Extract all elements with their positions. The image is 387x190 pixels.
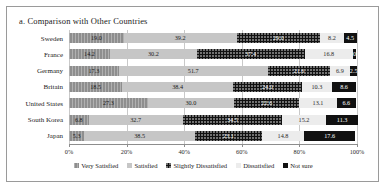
bar-segment: 0.9 [353,49,356,59]
category-label: Britain [0,83,63,91]
legend-swatch-icon [283,163,288,168]
x-axis-label: 20% [121,148,133,155]
bar-segment: 51.7 [119,66,268,76]
bar-segment: 17.6 [304,131,355,141]
bar-value-label: 37.4 [197,51,305,57]
x-axis-tick [357,144,358,147]
x-axis-tick [127,144,128,147]
bar-value-label: 6.9 [330,68,350,74]
bar-value-label: 24.0 [233,84,302,90]
gridline [357,30,358,144]
bar-value-label: 27.3 [69,100,148,106]
bar-segment: 14.2 [69,49,110,59]
legend-item[interactable]: Not sure [283,162,313,169]
bar-segment: 5.3 [69,131,84,141]
table-row: 18.538.424.010.38.6 [69,82,357,92]
legend-item[interactable]: Slightly Dissatisfied [166,162,227,169]
bar-value-label: 23.1 [195,133,262,139]
bar-value-label: 11.3 [326,116,359,122]
bar-value-label: 30.2 [110,51,197,57]
table-row: 14.230.237.416.80.9 [69,49,357,59]
bar-value-label: 0.9 [353,51,356,57]
legend-label: Not sure [290,162,313,169]
bar-value-label: 51.7 [119,68,268,74]
legend-label: Very Satisfied [81,162,118,169]
bar-segment: 27.3 [69,98,148,108]
bar-segment: 17.3 [69,66,119,76]
legend-swatch-icon [74,163,79,168]
bar-segment: 6.8 [69,115,89,125]
legend-swatch-icon [236,163,241,168]
table-row: 5.338.523.114.817.6 [69,131,357,141]
legend-label: Slightly Dissatisfied [173,162,227,169]
bar-segment: 11.3 [326,115,359,125]
chart-title: a. Comparison with Other Countries [19,16,148,26]
bar-value-label: 34.5 [183,116,282,122]
bar-value-label: 21.6 [268,68,330,74]
bar-value-label: 8.6 [332,84,357,90]
x-axis-label: 100% [350,148,365,155]
x-axis-tick [299,144,300,147]
x-axis-line [69,144,357,145]
legend-label: Dissatisfied [243,162,274,169]
bar-segment: 4.5 [344,33,357,43]
legend-item[interactable]: Dissatisfied [236,162,274,169]
bar-segment: 37.4 [197,49,305,59]
table-row: 17.351.721.66.92.5 [69,66,357,76]
bar-value-label: 38.5 [84,133,195,139]
bar-segment: 22.6 [234,98,299,108]
bar-segment: 6.6 [337,98,356,108]
bar-segment: 18.5 [69,82,122,92]
bar-segment: 19.0 [69,33,124,43]
bar-value-label: 38.4 [122,84,233,90]
legend-swatch-icon [166,163,171,168]
x-axis-tick [184,144,185,147]
bar-segment: 23.1 [195,131,262,141]
bar-value-label: 2.5 [350,68,357,74]
bar-value-label: 15.2 [282,116,326,122]
bar-value-label: 5.3 [69,133,84,139]
x-axis-tick [242,144,243,147]
bar-value-label: 32.7 [89,116,183,122]
bar-segment: 14.8 [262,131,305,141]
bar-value-label: 30.0 [148,100,234,106]
bar-segment: 34.5 [183,115,282,125]
bar-segment: 2.5 [350,66,357,76]
bar-value-label: 17.3 [69,68,119,74]
x-axis-label: 40% [178,148,190,155]
table-row: 19.039.229.08.24.5 [69,33,357,43]
bar-value-label: 14.2 [69,51,110,57]
bar-segment: 13.1 [299,98,337,108]
bar-value-label: 29.0 [237,35,321,41]
bar-segment: 38.4 [122,82,233,92]
category-label: South Korea [0,116,63,124]
x-axis-tick [69,144,70,147]
chart-legend: Very SatisfiedSatisfiedSlightly Dissatis… [0,162,387,169]
bar-segment: 21.6 [268,66,330,76]
x-axis-label: 0% [65,148,73,155]
bar-segment: 38.5 [84,131,195,141]
bar-value-label: 10.3 [302,84,332,90]
bar-segment: 32.7 [89,115,183,125]
legend-item[interactable]: Very Satisfied [74,162,118,169]
bar-value-label: 17.6 [304,133,355,139]
bar-value-label: 19.0 [69,35,124,41]
category-label: Germany [0,67,63,75]
table-row: 6.832.734.515.211.3 [69,115,357,125]
bar-segment: 15.2 [282,115,326,125]
table-row: 27.330.022.613.16.6 [69,98,357,108]
bar-segment: 29.0 [237,33,321,43]
bar-value-label: 18.5 [69,84,122,90]
bar-segment: 30.0 [148,98,234,108]
legend-label: Satisfied [134,162,157,169]
bar-value-label: 14.8 [262,133,305,139]
bar-segment: 8.2 [320,33,344,43]
category-label: Sweden [0,35,63,43]
bar-value-label: 8.2 [320,35,344,41]
x-axis-label: 60% [236,148,248,155]
bar-value-label: 22.6 [234,100,299,106]
legend-item[interactable]: Satisfied [127,162,157,169]
bar-value-label: 6.6 [337,100,356,106]
bar-value-label: 6.8 [69,116,89,122]
bar-segment: 24.0 [233,82,302,92]
